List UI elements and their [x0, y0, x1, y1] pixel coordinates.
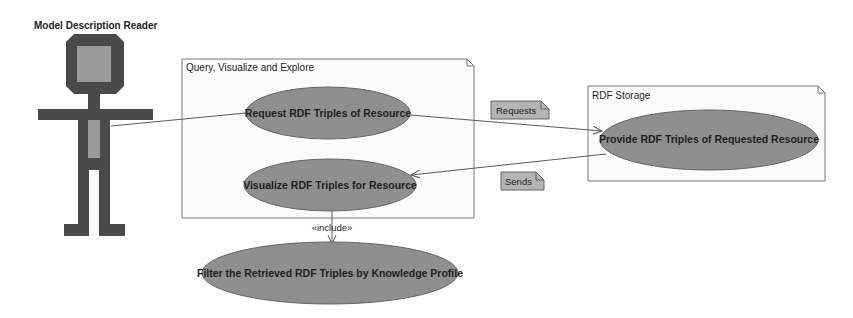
- use-case-label: Request RDF Triples of Resource: [245, 107, 411, 119]
- include-stereotype: «include»: [312, 222, 353, 233]
- package-title: Query, Visualize and Explore: [186, 62, 314, 73]
- use-case-visualize-rdf-triples[interactable]: Visualize RDF Triples for Resource: [243, 159, 417, 211]
- use-case-request-rdf-triples[interactable]: Request RDF Triples of Resource: [245, 87, 411, 139]
- note-requests: Requests: [491, 101, 549, 119]
- use-case-provide-rdf-triples[interactable]: Provide RDF Triples of Requested Resourc…: [599, 110, 819, 170]
- note-label: Requests: [496, 105, 536, 116]
- actor-model-description-reader[interactable]: Model Description Reader: [34, 20, 157, 236]
- actor-name: Model Description Reader: [34, 20, 157, 31]
- note-label: Sends: [505, 176, 532, 187]
- use-case-label: Provide RDF Triples of Requested Resourc…: [599, 133, 819, 145]
- actor-stick-figure-icon: [38, 34, 153, 236]
- use-case-label: Filter the Retrieved RDF Triples by Know…: [197, 267, 463, 279]
- use-case-filter-rdf-triples[interactable]: Filter the Retrieved RDF Triples by Know…: [197, 242, 463, 304]
- use-case-label: Visualize RDF Triples for Resource: [243, 179, 417, 191]
- use-case-diagram: Model Description Reader Query, Visualiz…: [0, 0, 853, 318]
- note-sends: Sends: [501, 172, 544, 190]
- package-title: RDF Storage: [592, 90, 651, 101]
